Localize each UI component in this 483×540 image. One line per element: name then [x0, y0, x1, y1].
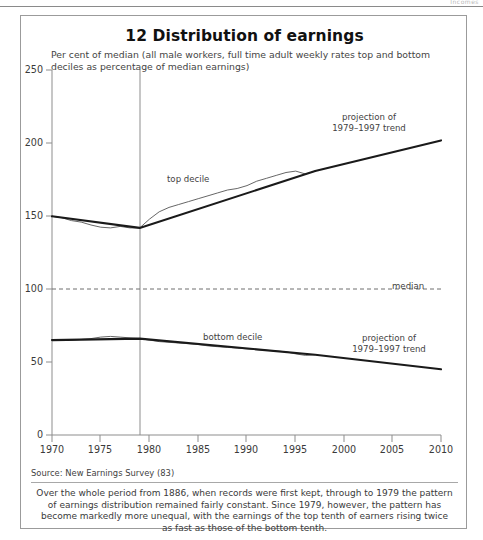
page-top-rule	[0, 6, 483, 7]
x-tick-label-2000: 2000	[322, 444, 366, 455]
y-tick-label-150: 150	[18, 210, 43, 221]
annotation-projection-bottom-line1: projection of	[334, 333, 444, 344]
y-tick-label-250: 250	[18, 64, 43, 75]
y-tick-label-100: 100	[18, 283, 43, 294]
y-tick-label-200: 200	[18, 137, 43, 148]
x-tick-label-1985: 1985	[176, 444, 220, 455]
annotation-median: median	[392, 281, 424, 292]
y-tick-label-50: 50	[18, 356, 43, 367]
chart-plot-area: 250 200 150 100 50 0 1970 1975 1980 1985…	[21, 16, 468, 530]
annotation-projection-bottom-line2: 1979–1997 trend	[334, 344, 444, 355]
x-tick-label-2005: 2005	[370, 444, 414, 455]
page-top-strip: Incomes	[0, 0, 483, 9]
x-tick-label-1990: 1990	[224, 444, 268, 455]
x-tick-label-2010: 2010	[419, 444, 463, 455]
x-tick-label-1975: 1975	[78, 444, 122, 455]
running-head: Incomes	[450, 0, 479, 5]
figure-frame: 12 Distribution of earnings Per cent of …	[20, 15, 467, 529]
source-note: Source: New Earnings Survey (83)	[31, 468, 451, 478]
annotation-top-decile: top decile	[167, 174, 209, 185]
annotation-projection-top-line2: 1979–1997 trend	[314, 123, 424, 134]
y-tick-label-0: 0	[18, 429, 43, 440]
caption-divider	[31, 482, 458, 483]
x-tick-label-1995: 1995	[273, 444, 317, 455]
x-tick-label-1980: 1980	[127, 444, 171, 455]
series-top-decile-trend	[52, 140, 441, 228]
annotation-bottom-decile: bottom decile	[203, 332, 262, 343]
annotation-projection-top-line1: projection of	[314, 112, 424, 123]
x-tick-label-1970: 1970	[30, 444, 74, 455]
figure-caption: Over the whole period from 1886, when re…	[35, 488, 454, 534]
